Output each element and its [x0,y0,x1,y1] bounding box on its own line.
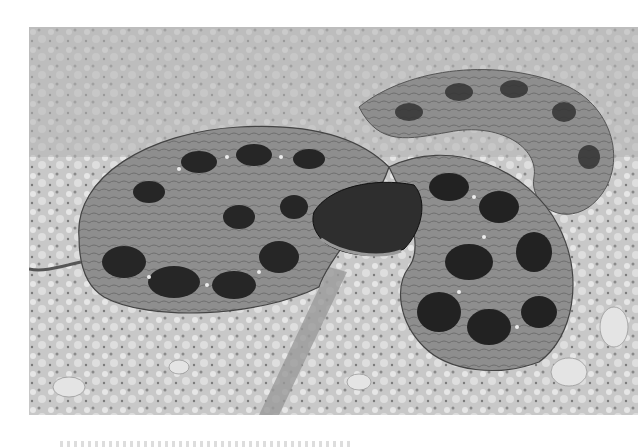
cropped-caption-text [60,441,350,447]
snake-photo-drawing [29,27,638,415]
snake-photograph: Black-and-white photograph of a coiled s… [29,27,638,415]
